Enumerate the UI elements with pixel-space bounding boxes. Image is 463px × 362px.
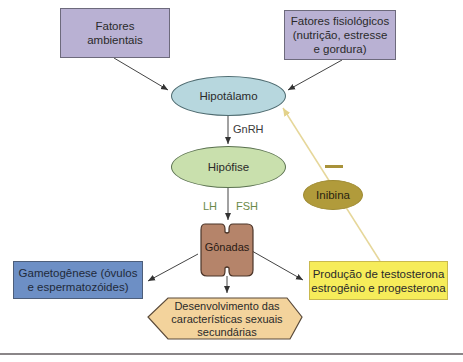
inibina-node: Inibina [303, 180, 363, 210]
producao-line2: estrogênio e progesterona [311, 281, 445, 295]
bottom-divider [0, 353, 463, 355]
arrow-gonadas-to-gametogenese [148, 254, 198, 281]
desenvolvimento-line2: características sexuais [171, 313, 282, 326]
hipofise-label: Hipófise [208, 160, 250, 174]
desenvolvimento-line1: Desenvolvimento das [174, 300, 279, 313]
hipofise-node: Hipófise [171, 146, 286, 188]
fatores-fisiologicos-line2: (nutrição, estresse [293, 28, 388, 42]
gonadas-label: Gônadas [205, 240, 250, 254]
gonadas-node: Gônadas [201, 238, 253, 256]
gametogenese-line1: Gametogênese (óvulos [19, 266, 138, 280]
inhibition-minus-icon [325, 165, 343, 168]
desenvolvimento-line3: secundárias [197, 326, 256, 339]
gnrh-label: GnRH [233, 123, 264, 135]
arrow-ambientais-to-hipotalamo [114, 58, 168, 90]
fsh-label: FSH [236, 200, 258, 212]
fatores-ambientais-line2: ambientais [87, 33, 143, 47]
fatores-fisiologicos-box: Fatores fisiológicos (nutrição, estresse… [284, 10, 396, 60]
hipotalamo-label: Hipotálamo [199, 89, 257, 103]
producao-line1: Produção de testosterona [313, 267, 445, 281]
hipotalamo-node: Hipotálamo [171, 76, 286, 116]
fatores-fisiologicos-line1: Fatores fisiológicos [291, 14, 389, 28]
gametogenese-box: Gametogênese (óvulos e espermatozóides) [13, 261, 143, 299]
gametogenese-line2: e espermatozóides) [28, 280, 129, 294]
inibina-label: Inibina [316, 188, 350, 202]
desenvolvimento-node: Desenvolvimento das características sexu… [160, 298, 294, 340]
fatores-ambientais-box: Fatores ambientais [60, 8, 170, 58]
fatores-ambientais-line1: Fatores [96, 19, 135, 33]
lh-label: LH [203, 200, 217, 212]
producao-box: Produção de testosterona estrogênio e pr… [309, 261, 448, 300]
fatores-fisiologicos-line3: e gordura) [313, 42, 366, 56]
arrow-fisiologicos-to-hipotalamo [288, 60, 342, 90]
arrow-gonadas-to-producao [252, 251, 303, 280]
